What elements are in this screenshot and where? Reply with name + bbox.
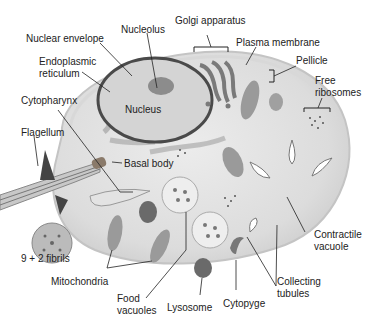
label-free-ribosomes-line2: ribosomes [315,87,361,98]
label-golgi-apparatus: Golgi apparatus [175,15,246,26]
label-endoplasmic-reticulum-line2: reticulum [39,68,80,79]
lysosome [194,258,212,278]
food-vacuole [162,177,198,213]
label-food-vacuoles-line2: vacuoles [117,305,156,316]
label-cytopharynx: Cytopharynx [21,95,77,106]
label-fibrils: 9 + 2 fibrils [21,253,70,264]
label-food-vacuoles-line1: Food [117,293,140,304]
label-lysosome: Lysosome [167,302,212,313]
label-nuclear-envelope: Nuclear envelope [26,33,104,44]
nucleus [98,58,212,142]
label-endoplasmic-reticulum-line1: Endoplasmic [39,56,96,67]
label-collecting-tubules-line1: Collecting [277,276,321,287]
paramecium-diagram: Nuclear envelope Nucleolus Golgi apparat… [0,0,378,326]
label-collecting-tubules-line2: tubules [277,288,309,299]
label-contractile-vacuole-line1: Contractile [314,229,362,240]
label-plasma-membrane: Plasma membrane [236,37,320,48]
label-mitochondria: Mitochondria [51,276,108,287]
food-vacuole [192,212,228,248]
label-cytopyge: Cytopyge [223,298,265,309]
label-free-ribosomes-line1: Free [315,75,336,86]
label-flagellum: Flagellum [21,127,64,138]
label-pellicle: Pellicle [296,55,328,66]
label-contractile-vacuole-line2: vacuole [314,241,348,252]
nucleolus [148,77,174,95]
label-nucleus: Nucleus [125,104,161,115]
label-nucleolus: Nucleolus [121,24,165,35]
label-basal-body: Basal body [124,158,173,169]
